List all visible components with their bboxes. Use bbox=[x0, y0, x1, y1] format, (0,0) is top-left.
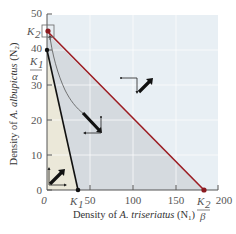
x-tick: 200 bbox=[216, 194, 233, 206]
k1-alpha-point bbox=[45, 48, 49, 52]
svg-text:1: 1 bbox=[38, 58, 44, 70]
y-axis-label: Density of A. albupictus (N2) bbox=[8, 42, 21, 165]
k2-beta-point bbox=[201, 187, 206, 192]
k1-label: K 1 bbox=[69, 195, 84, 210]
phase-plane-chart: 0 10 20 30 40 50 0 50 100 150 200 bbox=[0, 0, 236, 234]
svg-text:K: K bbox=[196, 195, 205, 207]
k1-alpha-label: K 1 α bbox=[29, 55, 44, 82]
y-tick: 20 bbox=[31, 114, 43, 126]
x-axis-label: Density of A. triseriatus (N1) bbox=[73, 209, 196, 222]
y-tick: 40 bbox=[31, 42, 43, 54]
svg-text:β: β bbox=[199, 210, 206, 222]
svg-text:K: K bbox=[26, 25, 35, 37]
svg-text:2: 2 bbox=[205, 198, 211, 210]
k2-beta-label: K 2 β bbox=[196, 195, 211, 222]
y-tick: 10 bbox=[31, 149, 43, 161]
svg-text:K: K bbox=[29, 55, 38, 67]
svg-text:K: K bbox=[69, 195, 78, 207]
x-tick: 150 bbox=[168, 194, 185, 206]
k2-label: K 2 bbox=[26, 25, 41, 40]
x-tick: 0 bbox=[41, 194, 47, 206]
x-tick: 100 bbox=[125, 194, 142, 206]
y-tick: 50 bbox=[31, 7, 43, 19]
svg-text:2: 2 bbox=[35, 28, 41, 40]
svg-text:α: α bbox=[32, 70, 38, 82]
x-tick: 50 bbox=[85, 194, 97, 206]
k2-point bbox=[45, 28, 50, 33]
k1-point bbox=[76, 188, 81, 193]
